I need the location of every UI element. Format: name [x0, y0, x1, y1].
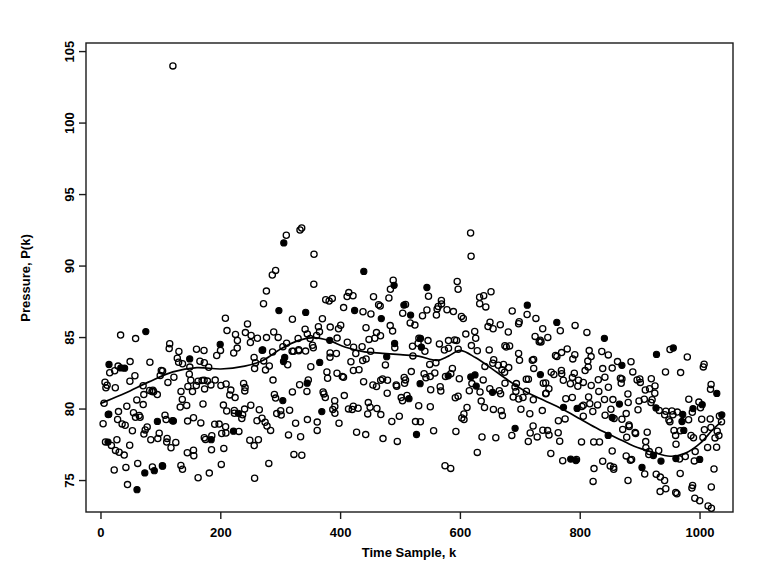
data-point	[489, 389, 495, 395]
data-point	[554, 319, 560, 325]
data-point	[217, 341, 223, 347]
x-tick-label-1000: 1000	[686, 525, 715, 540]
data-point	[361, 268, 367, 274]
y-tick-label-80: 80	[63, 402, 78, 416]
chart-background	[0, 0, 765, 587]
data-point	[681, 427, 687, 433]
data-point	[106, 411, 112, 417]
data-point	[230, 428, 236, 434]
x-tick-label-200: 200	[210, 525, 232, 540]
data-point	[303, 309, 309, 315]
data-point	[142, 470, 148, 476]
data-point	[317, 359, 323, 365]
data-point	[653, 351, 659, 357]
chart-canvas: 02004006008001000 7580859095100105 Time …	[0, 0, 765, 587]
data-point	[609, 414, 615, 420]
data-point	[699, 402, 705, 408]
data-point	[280, 398, 286, 404]
data-point	[537, 372, 543, 378]
data-point	[417, 381, 423, 387]
x-axis-title: Time Sample, k	[362, 545, 457, 560]
data-point	[122, 365, 128, 371]
data-point	[680, 411, 686, 417]
y-tick-label-105: 105	[63, 41, 78, 63]
y-tick-label-90: 90	[63, 259, 78, 273]
data-point	[408, 312, 414, 318]
y-tick-label-75: 75	[63, 473, 78, 487]
data-point	[658, 458, 664, 464]
y-tick-label-85: 85	[63, 330, 78, 344]
data-point	[260, 347, 266, 353]
data-point	[601, 335, 607, 341]
data-point	[319, 409, 325, 415]
data-point	[134, 487, 140, 493]
data-point	[187, 356, 193, 362]
data-point	[392, 340, 398, 346]
y-tick-label-100: 100	[63, 112, 78, 134]
x-tick-label-800: 800	[569, 525, 591, 540]
data-point	[282, 354, 288, 360]
data-point	[697, 456, 703, 462]
data-point	[472, 372, 478, 378]
data-point	[170, 418, 176, 424]
data-point	[276, 308, 282, 314]
data-point	[418, 344, 424, 350]
data-point	[639, 464, 645, 470]
data-point	[378, 316, 384, 322]
data-point	[573, 458, 579, 464]
data-point	[352, 307, 358, 313]
data-point	[512, 425, 518, 431]
data-point	[106, 361, 112, 367]
data-point	[714, 390, 720, 396]
x-tick-label-400: 400	[330, 525, 352, 540]
x-tick-label-0: 0	[97, 525, 104, 540]
data-point	[424, 284, 430, 290]
figure-scatter-pressure-vs-time: 02004006008001000 7580859095100105 Time …	[0, 0, 765, 587]
y-axis-title: Pressure, P(k)	[18, 234, 33, 321]
data-point	[690, 406, 696, 412]
data-point	[154, 418, 160, 424]
x-tick-label-600: 600	[450, 525, 472, 540]
data-point	[619, 362, 625, 368]
data-point	[616, 401, 622, 407]
data-point	[413, 431, 419, 437]
data-point	[143, 329, 149, 335]
y-tick-label-95: 95	[63, 187, 78, 201]
data-point	[473, 383, 479, 389]
data-point	[524, 302, 530, 308]
data-point	[679, 418, 685, 424]
data-point	[281, 240, 287, 246]
